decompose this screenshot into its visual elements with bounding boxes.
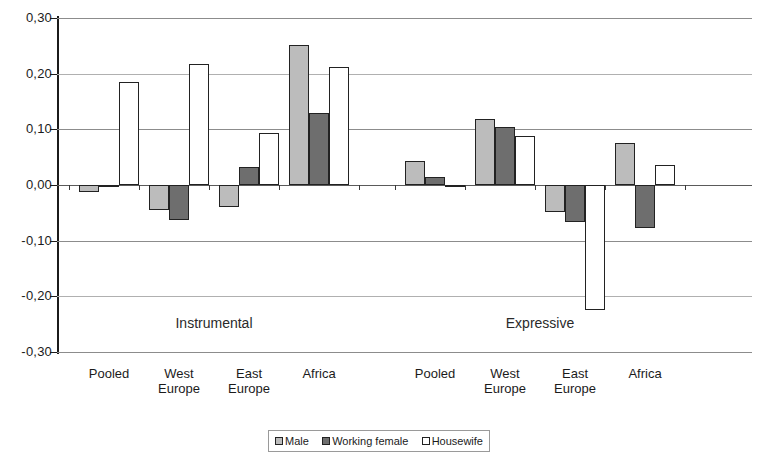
bar-wfemale [169, 185, 189, 220]
legend-label: Working female [332, 435, 408, 447]
bar-housewife [119, 82, 139, 185]
gridline [57, 18, 752, 19]
y-axis-tick-label: -0,30 [6, 345, 52, 358]
x-axis-category-label: Africa [274, 366, 364, 381]
legend-swatch-icon [275, 437, 283, 445]
bar-male [615, 143, 635, 185]
bar-male [79, 185, 99, 192]
bar-male [219, 185, 239, 207]
y-axis-tick-label: 0,20 [6, 67, 52, 80]
category-tick-mark [359, 185, 360, 190]
legend-swatch-icon [422, 437, 430, 445]
gridline [57, 296, 752, 297]
bar-chart: 0,300,200,100,00-0,10-0,20-0,30 Instrume… [0, 0, 758, 460]
y-axis-tick-mark [50, 18, 57, 19]
bar-housewife [445, 185, 465, 187]
y-axis-tick-label: -0,10 [6, 234, 52, 247]
panel-label-instrumental: Instrumental [79, 315, 349, 331]
legend-label: Housewife [432, 435, 483, 447]
y-axis-tick-label: -0,20 [6, 289, 52, 302]
gridline [57, 241, 752, 242]
category-tick-mark [465, 185, 466, 190]
bar-wfemale [635, 185, 655, 228]
legend-item: Housewife [422, 435, 483, 447]
y-axis-tick-mark [50, 296, 57, 297]
bar-housewife [515, 136, 535, 185]
y-axis-tick-mark [50, 185, 57, 186]
bar-male [149, 185, 169, 210]
bar-housewife [259, 133, 279, 185]
category-tick-mark [685, 185, 686, 190]
category-tick-mark [535, 185, 536, 190]
category-tick-mark [279, 185, 280, 190]
gridline [57, 352, 752, 353]
bar-male [475, 119, 495, 185]
y-axis-tick-mark [50, 129, 57, 130]
bar-wfemale [425, 177, 445, 185]
category-tick-mark [395, 185, 396, 190]
y-axis-tick-label: 0,10 [6, 122, 52, 135]
bar-housewife [329, 67, 349, 185]
y-axis-tick-label: 0,30 [6, 11, 52, 24]
x-axis-category-label: Africa [600, 366, 690, 381]
category-tick-mark [69, 185, 70, 190]
bar-wfemale [239, 167, 259, 185]
bar-wfemale [565, 185, 585, 222]
legend-item: Working female [322, 435, 408, 447]
gridline [57, 74, 752, 75]
plot-area [57, 18, 752, 352]
panel-label-expressive: Expressive [405, 315, 675, 331]
bar-wfemale [309, 113, 329, 185]
y-axis-tick-mark [50, 352, 57, 353]
bar-housewife [655, 165, 675, 185]
bar-wfemale [495, 127, 515, 185]
legend-swatch-icon [322, 437, 330, 445]
bar-housewife [585, 185, 605, 310]
bar-male [405, 161, 425, 185]
y-axis-tick-labels: 0,300,200,100,00-0,10-0,20-0,30 [0, 0, 52, 460]
bar-male [289, 45, 309, 185]
category-tick-mark [209, 185, 210, 190]
category-tick-mark [605, 185, 606, 190]
bar-housewife [189, 64, 209, 185]
y-axis-tick-label: 0,00 [6, 178, 52, 191]
legend-item: Male [275, 435, 309, 447]
gridline [57, 129, 752, 130]
category-tick-mark [139, 185, 140, 190]
y-axis-tick-mark [50, 74, 57, 75]
legend-label: Male [285, 435, 309, 447]
bar-wfemale [99, 185, 119, 187]
y-axis-tick-mark [50, 241, 57, 242]
chart-legend: MaleWorking femaleHousewife [268, 430, 490, 452]
bar-male [545, 185, 565, 212]
